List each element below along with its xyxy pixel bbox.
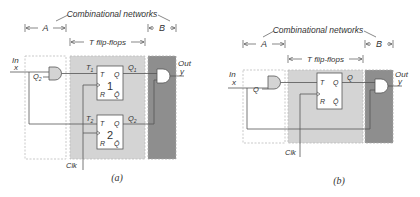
ff-t-pin: T (320, 79, 325, 86)
q-label: Q (347, 73, 353, 82)
caption-b: (b) (333, 175, 345, 187)
ff-r-pin: R (320, 98, 325, 105)
region-a-label: A (41, 23, 48, 33)
ff1-qbar-pin: Q̄ (114, 91, 120, 99)
ff2-qbar-pin: Q̄ (114, 140, 120, 148)
diagram-b: Combinational networks A B T flip-flops … (228, 25, 409, 187)
and-gate-a-icon (268, 76, 281, 89)
ff-qbar-pin: Q̄ (333, 98, 339, 106)
and-gate-b-icon (157, 69, 170, 83)
ff2-q-pin: Q (114, 120, 120, 128)
region-b-label: B (159, 23, 165, 33)
ff-q-pin: Q (333, 79, 339, 87)
flipflops-label: T flip-flops (89, 38, 126, 47)
output-label-y: y (179, 67, 185, 76)
and-gate-b-icon (375, 79, 388, 93)
input-label-x: x (231, 78, 237, 87)
header-pointer-right (158, 15, 170, 21)
clock-label: Clk (285, 148, 297, 157)
ff2-t-pin: T (100, 120, 105, 127)
circuit-diagrams: Combinational networks A B T flip-flops … (0, 0, 420, 197)
ff1-q-pin: Q (114, 71, 120, 79)
flipflops-label: T flip-flops (307, 55, 344, 64)
clock-label: Clk (66, 161, 78, 170)
ff1-r-pin: R (100, 91, 105, 98)
combinational-networks-label: Combinational networks (273, 25, 364, 35)
ff2-r-pin: R (100, 140, 105, 147)
region-b-label: B (376, 39, 382, 49)
header-pointer-right (364, 31, 376, 37)
region-a-label: A (260, 39, 267, 49)
gate-a-input-label: Q (253, 85, 259, 94)
combinational-networks-label: Combinational networks (67, 9, 158, 19)
caption-a: (a) (111, 172, 123, 184)
diagram-a: Combinational networks A B T flip-flops … (10, 9, 192, 184)
ff1-t-pin: T (100, 71, 105, 78)
ff1-number: 1 (107, 80, 113, 92)
ff2-number: 2 (107, 129, 113, 141)
and-gate-a-icon (49, 67, 62, 80)
